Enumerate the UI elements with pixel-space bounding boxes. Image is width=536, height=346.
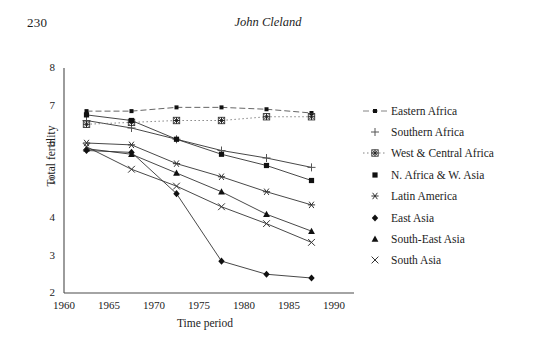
chart-series-group — [83, 105, 316, 281]
legend-marker-icon — [362, 252, 388, 268]
data-point-marker — [309, 178, 314, 183]
data-point-marker — [173, 160, 180, 166]
series-line — [87, 121, 312, 168]
legend-label: Latin America — [388, 190, 457, 202]
legend-marker-icon — [362, 124, 388, 140]
book-page: 230 John Cleland Total fertility Time pe… — [0, 0, 536, 346]
data-point-marker — [173, 117, 179, 123]
chart-legend: Eastern AfricaSouthern AfricaWest & Cent… — [362, 100, 532, 271]
data-point-marker — [174, 137, 179, 142]
data-point-marker — [308, 228, 315, 234]
data-point-marker — [308, 114, 314, 120]
data-point-marker — [219, 152, 224, 157]
legend-marker-icon — [362, 210, 388, 226]
y-tick-label: 4 — [39, 211, 55, 223]
data-point-marker — [128, 142, 135, 148]
x-tick-label: 1965 — [94, 299, 124, 311]
figure-fertility-chart: Total fertility Time period 196019651970… — [0, 0, 536, 346]
data-point-marker — [263, 154, 271, 162]
data-point-marker — [218, 258, 224, 265]
legend-item-east-asia[interactable]: East Asia — [362, 207, 532, 228]
y-tick-label: 7 — [39, 99, 55, 111]
legend-marker-icon — [362, 231, 388, 247]
data-point-marker — [308, 239, 315, 246]
legend-label: East Asia — [388, 212, 434, 224]
legend-item-south-asia[interactable]: South Asia — [362, 250, 532, 271]
data-point-marker — [263, 189, 270, 195]
legend-item-southern-africa[interactable]: Southern Africa — [362, 121, 532, 142]
legend-marker-icon — [362, 103, 388, 119]
y-axis-title: Total fertility — [45, 96, 57, 216]
y-tick-label: 2 — [39, 286, 55, 298]
data-point-marker — [130, 109, 134, 113]
data-point-marker — [83, 121, 89, 127]
data-point-marker — [218, 188, 225, 194]
x-tick-label: 1990 — [319, 299, 349, 311]
series-line — [87, 107, 312, 113]
legend-label: South Asia — [388, 254, 441, 266]
data-point-marker — [175, 105, 179, 109]
chart-series-south-east-asia — [83, 145, 315, 234]
legend-label: N. Africa & W. Asia — [388, 169, 484, 181]
x-tick-label: 1960 — [49, 299, 79, 311]
legend-label: South-East Asia — [388, 233, 465, 245]
series-line — [87, 115, 312, 181]
x-tick-label: 1970 — [139, 299, 169, 311]
legend-item-latin-america[interactable]: Latin America — [362, 186, 532, 207]
chart-series-south-asia — [83, 143, 315, 245]
chart-series-n-africa-w-asia — [84, 112, 314, 183]
data-point-marker — [128, 166, 135, 173]
data-point-marker — [218, 117, 224, 123]
data-point-marker — [263, 211, 270, 217]
legend-label: West & Central Africa — [388, 147, 494, 159]
legend-label: Southern Africa — [388, 126, 464, 138]
x-tick-label: 1985 — [274, 299, 304, 311]
data-point-marker — [263, 271, 269, 278]
data-point-marker — [173, 170, 180, 176]
data-point-marker — [218, 203, 225, 210]
chart-series-eastern-africa — [85, 105, 314, 115]
data-point-marker — [308, 274, 314, 281]
legend-item-n-africa-w-asia[interactable]: N. Africa & W. Asia — [362, 164, 532, 185]
series-line — [87, 117, 312, 125]
series-line — [87, 149, 312, 232]
data-point-marker — [308, 163, 316, 171]
data-point-marker — [263, 220, 270, 227]
data-point-marker — [173, 183, 180, 190]
data-point-marker — [129, 118, 134, 123]
legend-marker-icon — [362, 145, 388, 161]
x-axis-title: Time period — [55, 317, 355, 329]
y-tick-label: 6 — [39, 136, 55, 148]
x-tick-label: 1980 — [229, 299, 259, 311]
legend-marker-icon — [362, 167, 388, 183]
y-tick-label: 8 — [39, 61, 55, 73]
legend-item-eastern-africa[interactable]: Eastern Africa — [362, 100, 532, 121]
legend-marker-icon — [362, 188, 388, 204]
chart-series-latin-america — [83, 140, 315, 208]
data-point-marker — [308, 202, 315, 208]
data-point-marker — [220, 105, 224, 109]
y-tick-label: 3 — [39, 249, 55, 261]
data-point-marker — [265, 107, 269, 111]
x-tick-label: 1975 — [184, 299, 214, 311]
y-tick-label: 5 — [39, 174, 55, 186]
legend-label: Eastern Africa — [388, 105, 457, 117]
data-point-marker — [263, 114, 269, 120]
legend-item-south-east-asia[interactable]: South-East Asia — [362, 228, 532, 249]
data-point-marker — [84, 112, 89, 117]
data-point-marker — [264, 163, 269, 168]
legend-item-west-central-africa[interactable]: West & Central Africa — [362, 143, 532, 164]
data-point-marker — [218, 174, 225, 180]
chart-series-east-asia — [83, 147, 314, 282]
